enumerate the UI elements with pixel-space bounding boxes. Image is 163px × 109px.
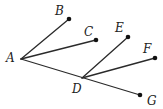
point-b-label: B (54, 4, 64, 18)
point-e-dot (126, 35, 131, 40)
point-g-dot (138, 93, 143, 98)
point-a-label: A (5, 51, 15, 65)
point-f-label: F (142, 42, 152, 56)
point-d-label: D (71, 82, 82, 96)
point-g-label: G (147, 94, 157, 108)
point-c-dot (94, 38, 99, 43)
point-b-dot (67, 17, 72, 22)
point-labels: ABCDEFG (5, 4, 157, 108)
point-f-dot (153, 56, 158, 61)
geometry-diagram: ABCDEFG (0, 0, 163, 109)
point-e-label: E (114, 21, 124, 35)
point-c-label: C (84, 25, 93, 39)
